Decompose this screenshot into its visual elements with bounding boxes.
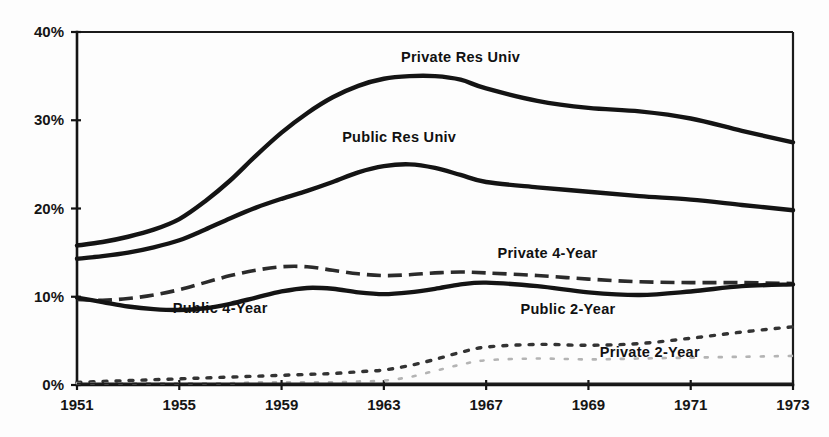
series-label-private-res-univ: Private Res Univ bbox=[401, 49, 520, 65]
series-annotation-group: Private Res UnivPublic Res UnivPrivate 4… bbox=[173, 49, 700, 360]
y-tick-label: 10% bbox=[34, 288, 64, 305]
x-tick-label: 1955 bbox=[163, 396, 196, 413]
x-tick-label: 1973 bbox=[776, 396, 809, 413]
chart-series-group bbox=[77, 76, 793, 384]
x-tick-label: 1971 bbox=[674, 396, 707, 413]
x-axis-tick-labels: 19511955195919631967196919711973 bbox=[60, 396, 809, 413]
x-tick-label: 1963 bbox=[367, 396, 400, 413]
series-label-public-res-univ: Public Res Univ bbox=[342, 129, 456, 145]
series-label-public-4-year: Public 4-Year bbox=[173, 300, 268, 316]
x-tick-label: 1967 bbox=[469, 396, 502, 413]
x-tick-label: 1951 bbox=[60, 396, 93, 413]
series-line-private-4-year bbox=[77, 266, 793, 300]
chart-container: 0%10%20%30%40% 1951195519591963196719691… bbox=[0, 0, 829, 437]
y-tick-label: 30% bbox=[34, 111, 64, 128]
y-tick-label: 40% bbox=[34, 23, 64, 40]
y-tick-label: 0% bbox=[42, 376, 64, 393]
series-label-private-4-year: Private 4-Year bbox=[497, 245, 597, 261]
line-chart: 0%10%20%30%40% 1951195519591963196719691… bbox=[0, 0, 829, 437]
series-label-private-2-year: Private 2-Year bbox=[600, 344, 700, 360]
series-line-private-res-univ bbox=[77, 76, 793, 246]
y-axis-tick-labels: 0%10%20%30%40% bbox=[34, 23, 64, 393]
plot-frame bbox=[77, 32, 793, 385]
x-tick-label: 1969 bbox=[572, 396, 605, 413]
series-line-public-res-univ bbox=[77, 164, 793, 258]
y-tick-label: 20% bbox=[34, 200, 64, 217]
series-label-public-2-year: Public 2-Year bbox=[520, 301, 615, 317]
x-tick-label: 1959 bbox=[265, 396, 298, 413]
